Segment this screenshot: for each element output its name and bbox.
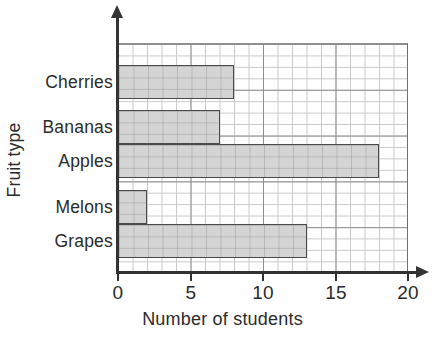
x-tick-15 xyxy=(335,272,337,281)
bar-melons xyxy=(118,190,147,224)
bar-chart: 0 5 10 15 20 Cherries Bananas Apples Mel… xyxy=(0,0,445,337)
bar-cherries xyxy=(118,65,234,99)
x-tick-20 xyxy=(407,272,409,281)
x-tick-5 xyxy=(190,272,192,281)
bar-apples xyxy=(118,144,379,178)
y-category-label-apples: Apples xyxy=(58,151,113,172)
y-category-label-bananas: Bananas xyxy=(43,117,114,138)
x-axis-line xyxy=(116,271,418,274)
y-axis-arrow-icon xyxy=(111,5,123,18)
x-tick-0 xyxy=(117,272,119,281)
y-axis-line xyxy=(116,16,119,274)
y-axis-title: Fruit type xyxy=(4,123,25,198)
y-category-label-melons: Melons xyxy=(55,197,113,218)
x-tick-label-10: 10 xyxy=(243,282,283,304)
x-axis-title: Number of students xyxy=(0,309,445,330)
x-tick-10 xyxy=(262,272,264,281)
x-tick-label-5: 5 xyxy=(171,282,211,304)
y-category-label-cherries: Cherries xyxy=(45,72,113,93)
x-tick-label-15: 15 xyxy=(316,282,356,304)
x-axis-arrow-icon xyxy=(416,266,429,278)
y-category-label-grapes: Grapes xyxy=(54,231,113,252)
x-tick-label-20: 20 xyxy=(388,282,428,304)
x-tick-label-0: 0 xyxy=(98,282,138,304)
bar-bananas xyxy=(118,110,220,144)
bar-grapes xyxy=(118,224,307,258)
